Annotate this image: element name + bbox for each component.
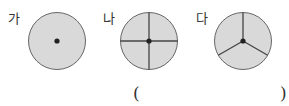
center-dot bbox=[146, 38, 151, 43]
answer-open-paren: ( bbox=[133, 85, 140, 102]
answer-blank[interactable] bbox=[145, 85, 275, 103]
circle-figure-da bbox=[213, 11, 273, 71]
answer-close-paren: ) bbox=[280, 85, 287, 102]
figure-label-da: 다 bbox=[196, 12, 208, 25]
figure-label-ga: 가 bbox=[8, 12, 20, 25]
figure-label-na: 나 bbox=[103, 12, 115, 25]
center-dot bbox=[240, 38, 245, 43]
circle-figure-na bbox=[119, 11, 179, 71]
center-dot bbox=[54, 38, 59, 43]
circle-figure-ga bbox=[27, 11, 87, 71]
